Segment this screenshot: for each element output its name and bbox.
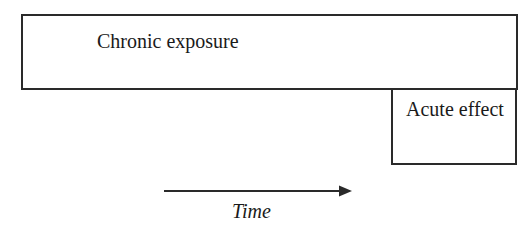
acute-effect-box: Acute effect bbox=[391, 88, 517, 165]
chronic-exposure-box: Chronic exposure bbox=[21, 14, 518, 90]
time-axis-label: Time bbox=[232, 200, 271, 223]
acute-effect-label: Acute effect bbox=[406, 97, 506, 121]
chronic-exposure-label: Chronic exposure bbox=[97, 29, 239, 53]
time-arrow-icon bbox=[163, 184, 355, 198]
